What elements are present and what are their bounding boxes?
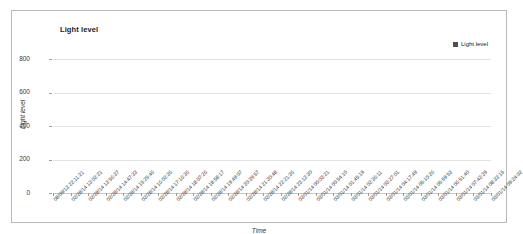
y-tick-label: 600 <box>0 89 30 96</box>
gridline <box>53 59 491 60</box>
y-tick-label: 400 <box>0 123 30 130</box>
gridline <box>53 126 491 127</box>
chart-legend: Light level <box>453 41 488 47</box>
y-tick-mark <box>49 126 52 127</box>
plot-area: 0200400600800 08/09/13 22:11:2102/28/14 … <box>53 49 491 193</box>
chart-card: Light level Light level Light level 0200… <box>11 10 507 223</box>
x-axis-title: Time <box>12 227 506 234</box>
y-tick-mark <box>49 193 52 194</box>
gridline <box>53 160 491 161</box>
legend-swatch-icon <box>453 42 458 47</box>
y-tick-label: 200 <box>0 156 30 163</box>
y-tick-label: 800 <box>0 56 30 63</box>
chart-title: Light level <box>60 25 98 34</box>
gridline <box>53 93 491 94</box>
legend-label: Light level <box>461 41 488 47</box>
y-tick-mark <box>49 59 52 60</box>
y-tick-label: 0 <box>0 190 30 197</box>
y-tick-mark <box>49 93 52 94</box>
y-tick-mark <box>49 160 52 161</box>
